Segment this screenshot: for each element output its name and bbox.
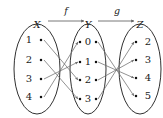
set-ellipse-Z <box>119 24 161 114</box>
element-label-Z-5: 5 <box>145 90 151 101</box>
edge-f-3-to-1 <box>44 62 78 79</box>
element-label-Y-0: 0 <box>85 36 91 47</box>
element-label-Z-3: 3 <box>145 54 151 65</box>
element-dots <box>40 39 138 101</box>
edge-f-4-to-0 <box>44 42 78 97</box>
set-ellipse-X <box>14 24 60 114</box>
element-dot-Y-2 <box>95 79 98 82</box>
element-dot-Y-1 <box>79 61 82 64</box>
element-dot-Z-3 <box>135 59 138 62</box>
set-label-X: X <box>32 19 41 30</box>
element-label-X-3: 3 <box>26 73 32 84</box>
f-mapping-edges <box>44 40 78 99</box>
element-dot-Z-5 <box>135 95 138 98</box>
element-label-X-1: 1 <box>26 34 32 45</box>
element-dot-Z-2 <box>135 41 138 44</box>
element-dot-X-4 <box>40 96 43 99</box>
element-label-Y-2: 2 <box>85 74 91 85</box>
top-map-labels: fg <box>63 5 120 16</box>
map-label-f: f <box>63 5 69 16</box>
element-dot-X-2 <box>40 59 43 62</box>
element-label-Y-1: 1 <box>85 56 91 67</box>
g-mapping-edges <box>98 42 134 99</box>
element-dot-Y-3 <box>95 98 98 101</box>
element-label-X-2: 2 <box>26 54 32 65</box>
element-dot-Z-4 <box>135 77 138 80</box>
element-dot-Y-0 <box>95 41 98 44</box>
element-dot-Y-2 <box>79 79 82 82</box>
map-label-g: g <box>114 5 120 16</box>
function-composition-diagram: 1234X0123Y2345Z fg <box>0 0 163 118</box>
element-labels: 1234X0123Y2345Z <box>26 19 151 104</box>
set-label-Z: Z <box>136 19 145 30</box>
diagram-canvas: 1234X0123Y2345Z fg <box>0 0 163 118</box>
element-dot-Y-3 <box>79 98 82 101</box>
element-label-Z-4: 4 <box>145 72 151 83</box>
element-label-X-4: 4 <box>26 91 32 102</box>
element-dot-X-3 <box>40 78 43 81</box>
edge-f-2-to-3 <box>44 60 78 99</box>
element-dot-Y-1 <box>95 61 98 64</box>
element-dot-X-1 <box>40 39 43 42</box>
element-dot-Y-0 <box>79 41 82 44</box>
element-label-Z-2: 2 <box>145 36 151 47</box>
element-label-Y-3: 3 <box>85 93 91 104</box>
